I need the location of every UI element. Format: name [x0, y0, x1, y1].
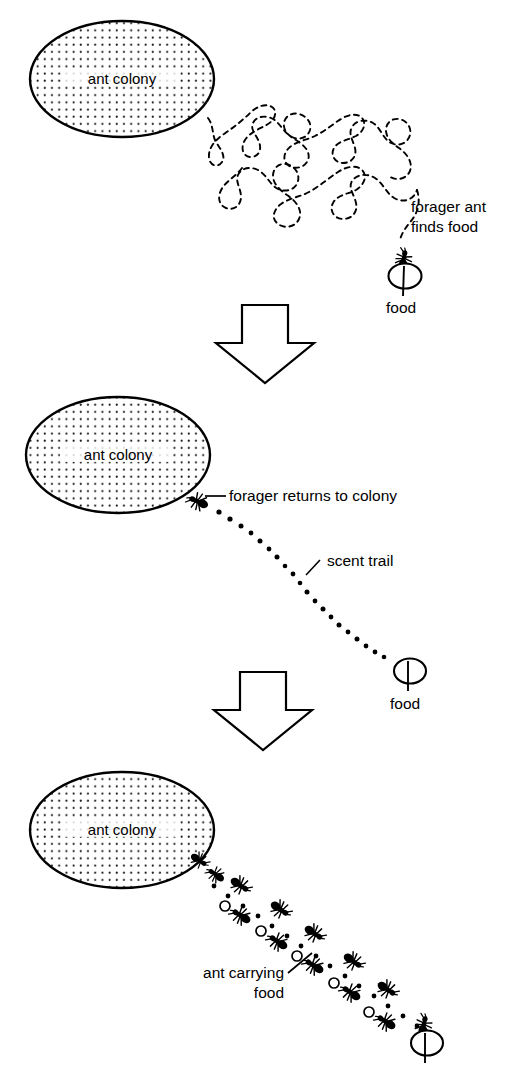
panel-2-scent-leader — [306, 560, 320, 575]
panel-2-colony-label: ant colony — [84, 446, 153, 463]
food-seed-icon — [394, 659, 426, 684]
ant-with-food — [364, 1007, 400, 1034]
panel-1-food-label: food — [386, 299, 416, 316]
diagram-canvas: ant colony forager ant finds food food — [0, 0, 531, 1070]
ant-with-food — [256, 926, 292, 955]
panel-2-food — [394, 659, 426, 692]
panel-2-colony: ant colony — [26, 397, 210, 513]
panel-2-scent-trail-label: scent trail — [327, 552, 393, 569]
down-arrow-icon — [214, 672, 312, 750]
panel-2-scent-trail — [216, 509, 386, 659]
down-arrow-icon — [216, 305, 314, 383]
panel-3-colony: ant colony — [30, 772, 214, 888]
step-arrow-2 — [214, 672, 312, 750]
panel-3-carrying-label-line1: ant carrying — [203, 964, 284, 981]
panel-1-colony-label: ant colony — [88, 70, 157, 87]
panel-2-forager-returns-label: forager returns to colony — [229, 487, 397, 504]
step-arrow-1 — [216, 305, 314, 383]
ant-with-food — [220, 901, 255, 928]
ant-foraging-diagram: ant colony forager ant finds food food — [0, 0, 531, 1070]
ant-with-food — [329, 978, 365, 1006]
panel-3-ant-column — [187, 849, 434, 1037]
panel-2-food-label: food — [390, 695, 420, 712]
panel-1-forager-label-line1: forager ant — [411, 198, 487, 215]
panel-3-carrying-label-line2: food — [254, 984, 284, 1001]
panel-1-colony: ant colony — [30, 21, 214, 137]
panel-3-food-source — [411, 1031, 443, 1064]
food-seed-icon — [411, 1031, 443, 1056]
panel-2: ant colony — [26, 397, 426, 712]
panel-3-colony-label: ant colony — [88, 821, 157, 838]
panel-1-forager-label-line2: finds food — [411, 218, 478, 235]
panel-1-food — [389, 264, 422, 297]
panel-3-scent-trail — [212, 884, 420, 1029]
panel-1: ant colony forager ant finds food food — [30, 21, 487, 316]
panel-1-search-path — [208, 105, 419, 240]
panel-3: ant colony — [30, 772, 443, 1063]
food-seed-icon — [389, 264, 422, 289]
